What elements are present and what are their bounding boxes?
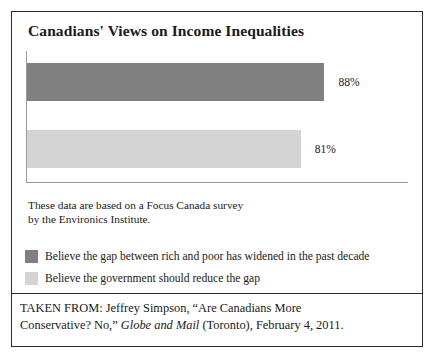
attribution-line-2: Conservative? No,” Globe and Mail (Toron…	[20, 317, 420, 334]
bar-reduce-gap	[27, 130, 301, 168]
x-axis-line	[26, 182, 408, 183]
legend-item-widened-gap: Believe the gap between rich and poor ha…	[25, 247, 415, 266]
bar-widened-gap	[27, 63, 324, 101]
bar-value-label: 81%	[315, 143, 336, 155]
legend-item-label: Believe the government should reduce the…	[45, 273, 260, 285]
attribution-publication-title: Globe and Mail	[121, 318, 199, 332]
chart-legend: Believe the gap between rich and poor ha…	[25, 247, 415, 291]
attribution: TAKEN FROM: Jeffrey Simpson, “Are Canadi…	[20, 300, 420, 333]
legend-item-label: Believe the gap between rich and poor ha…	[45, 251, 370, 263]
figure-frame: Canadians' Views on Income Inequalities …	[11, 11, 423, 347]
source-note-line-2: by the Environics Institute.	[28, 212, 358, 226]
legend-swatch-icon	[25, 250, 38, 263]
legend-item-reduce-gap: Believe the government should reduce the…	[25, 269, 415, 288]
attribution-line-1: TAKEN FROM: Jeffrey Simpson, “Are Canadi…	[20, 300, 420, 317]
bar-value-label: 88%	[338, 76, 359, 88]
legend-swatch-icon	[25, 272, 38, 285]
chart-title: Canadians' Views on Income Inequalities	[28, 22, 304, 40]
source-note: These data are based on a Focus Canada s…	[28, 198, 358, 227]
source-note-line-1: These data are based on a Focus Canada s…	[28, 198, 358, 212]
attribution-line-2-suffix: (Toronto), February 4, 2011.	[199, 318, 343, 332]
plot-area: 88% 81%	[26, 51, 408, 183]
attribution-divider	[12, 293, 422, 294]
attribution-line-2-prefix: Conservative? No,”	[20, 318, 121, 332]
